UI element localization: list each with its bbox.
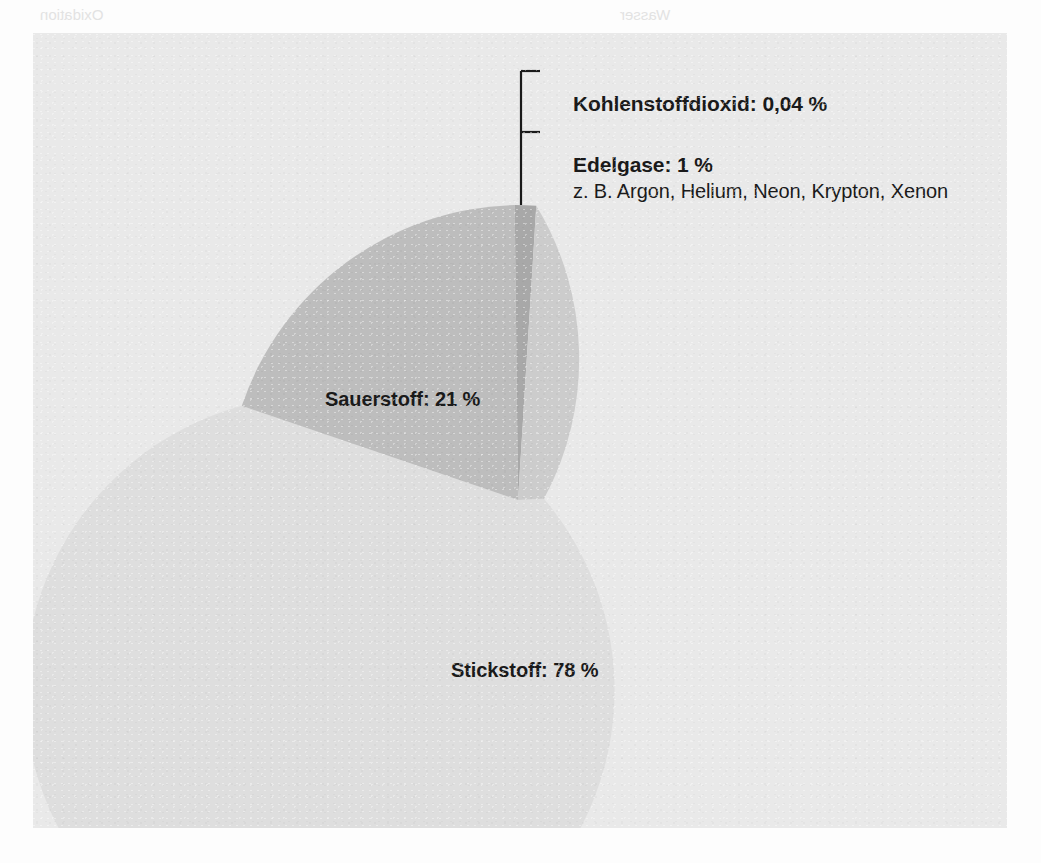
figure-panel: Kohlenstoffdioxid: 0,04 % Edelgase: 1 % … — [33, 33, 1007, 828]
callout-kohlenstoffdioxid-title: Kohlenstoffdioxid: 0,04 % — [573, 91, 827, 118]
bleed-text-line: Oxidation — [40, 6, 103, 23]
scanned-page-background: Oxidation Wasser Sauerstoff Reaktion Ene… — [0, 0, 1041, 863]
callout-kohlenstoffdioxid: Kohlenstoffdioxid: 0,04 % — [573, 91, 827, 118]
callout-edelgase: Edelgase: 1 % z. B. Argon, Helium, Neon,… — [573, 152, 948, 204]
callout-edelgase-subtitle: z. B. Argon, Helium, Neon, Krypton, Xeno… — [573, 179, 948, 205]
bleed-text-line: Wasser — [620, 6, 670, 23]
slice-label-sauerstoff: Sauerstoff: 21 % — [325, 388, 480, 411]
callout-edelgase-title: Edelgase: 1 % — [573, 152, 948, 179]
callout-leader-lines — [521, 71, 540, 205]
slice-label-stickstoff: Stickstoff: 78 % — [451, 659, 598, 682]
